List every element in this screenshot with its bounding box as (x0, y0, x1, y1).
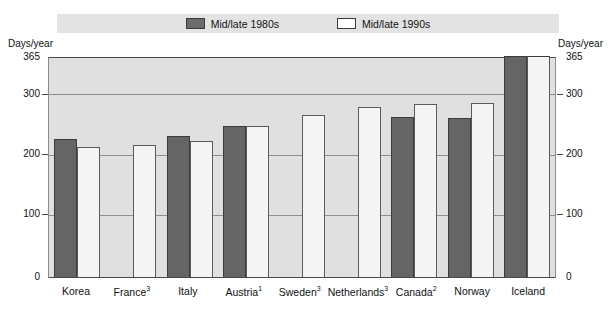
ytick-left-100: 100 (8, 208, 40, 219)
legend-swatch-1990s-icon (337, 18, 356, 29)
ytick-left-0: 0 (8, 271, 40, 282)
ytick-mark-right-300 (557, 94, 563, 95)
legend-label-1980s: Mid/late 1980s (211, 18, 279, 30)
bar-austria-1990s (246, 126, 269, 277)
ytick-right-200: 200 (566, 148, 600, 159)
ytick-mark-right-200 (557, 154, 563, 155)
ytick-right-0: 0 (566, 271, 600, 282)
chart-plot-area (48, 57, 556, 278)
bar-italy-1990s (190, 141, 213, 277)
bar-canada-1980s (391, 117, 414, 277)
bar-group-korea (49, 58, 105, 277)
x-label-canada: Canada2 (388, 281, 444, 303)
x-label-korea: Korea (48, 281, 104, 303)
x-label-italy: Italy (160, 281, 216, 303)
bar-italy-1980s (167, 136, 190, 277)
footnote-marker: 1 (258, 285, 262, 292)
bar-group-iceland (499, 58, 555, 277)
bar-norway-1980s (448, 118, 471, 277)
legend-item-1990s: Mid/late 1990s (337, 18, 430, 30)
footnote-marker: 2 (433, 285, 437, 292)
left-axis-caption: Days/year (8, 38, 53, 49)
bar-france-1990s (133, 145, 156, 277)
bar-group-italy (161, 58, 217, 277)
ytick-mark-right-100 (557, 214, 563, 215)
bar-groups (49, 58, 555, 277)
bar-group-france (105, 58, 161, 277)
bar-iceland-1980s (504, 56, 527, 277)
bar-austria-1980s (223, 126, 246, 277)
bar-group-austria (218, 58, 274, 277)
legend-label-1990s: Mid/late 1990s (362, 18, 430, 30)
bar-korea-1990s (77, 147, 100, 277)
x-label-iceland: Iceland (500, 281, 556, 303)
x-label-norway: Norway (444, 281, 500, 303)
footnote-marker: 3 (317, 285, 321, 292)
bar-group-canada (386, 58, 442, 277)
bar-iceland-1990s (527, 56, 550, 277)
bar-norway-1990s (471, 103, 494, 277)
ytick-right-365: 365 (566, 51, 600, 62)
ytick-left-300: 300 (8, 88, 40, 99)
x-label-austria: Austria1 (216, 281, 272, 303)
ytick-left-200: 200 (8, 148, 40, 159)
x-label-sweden: Sweden3 (272, 281, 328, 303)
ytick-left-365: 365 (8, 51, 40, 62)
legend-item-1980s: Mid/late 1980s (186, 18, 279, 30)
bar-canada-1990s (414, 104, 437, 277)
legend-swatch-1980s-icon (186, 18, 205, 29)
bar-group-norway (443, 58, 499, 277)
x-label-france: France3 (104, 281, 160, 303)
right-axis-caption: Days/year (558, 38, 603, 49)
ytick-right-100: 100 (566, 208, 600, 219)
bar-netherlands-1990s (358, 107, 381, 277)
bar-group-netherlands (330, 58, 386, 277)
bar-group-sweden (274, 58, 330, 277)
x-label-netherlands: Netherlands3 (328, 281, 389, 303)
footnote-marker: 3 (146, 285, 150, 292)
ytick-right-300: 300 (566, 88, 600, 99)
x-axis-labels: KoreaFrance3ItalyAustria1Sweden3Netherla… (48, 281, 556, 303)
bar-sweden-1990s (302, 115, 325, 277)
chart-legend: Mid/late 1980s Mid/late 1990s (57, 14, 559, 33)
bar-korea-1980s (54, 139, 77, 277)
